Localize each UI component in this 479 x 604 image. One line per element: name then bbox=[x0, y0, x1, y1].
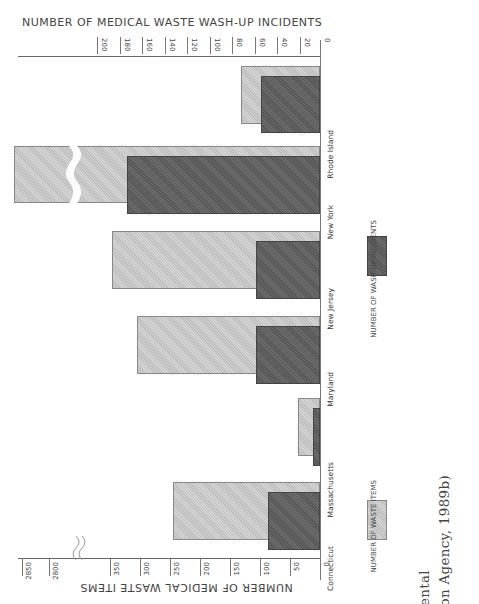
top-tick-label: 80 bbox=[235, 38, 243, 47]
top-tick bbox=[97, 37, 98, 54]
top-tick-label: 140 bbox=[168, 38, 176, 51]
axis-break-icon bbox=[70, 536, 88, 564]
bar-incidents-new-york bbox=[127, 156, 320, 214]
top-tick-label: 120 bbox=[190, 38, 198, 51]
top-tick-label: 0 bbox=[323, 38, 331, 42]
category-label: Rhode Island bbox=[326, 130, 335, 179]
top-tick bbox=[277, 37, 278, 54]
bar-incidents-new-jersey bbox=[256, 241, 320, 299]
bottom-tick bbox=[230, 558, 231, 576]
category-label: Connecticut bbox=[326, 546, 335, 591]
top-tick-label: 40 bbox=[280, 38, 288, 47]
bottom-tick-label: 350 bbox=[113, 562, 121, 575]
bottom-tick-label: 50 bbox=[293, 562, 301, 571]
bottom-axis-title: NUMBER OF MEDICAL WASTE ITEMS bbox=[80, 581, 293, 594]
top-tick-label: 160 bbox=[145, 38, 153, 51]
bottom-tick-label: 250 bbox=[173, 562, 181, 575]
bottom-tick-label: 2800 bbox=[52, 562, 60, 580]
bottom-tick bbox=[22, 558, 23, 576]
top-tick bbox=[142, 37, 143, 54]
axis-break-icon bbox=[60, 143, 84, 207]
top-tick-label: 60 bbox=[258, 38, 266, 47]
figure-caption-line2: Protection Agency, 1989b) bbox=[436, 475, 452, 604]
top-tick-label: 180 bbox=[123, 38, 131, 51]
top-tick bbox=[210, 37, 211, 54]
bar-incidents-massachusetts bbox=[313, 408, 320, 466]
bottom-tick bbox=[140, 558, 141, 576]
bar-incidents-connecticut bbox=[268, 492, 320, 550]
category-label: New Jersey bbox=[326, 288, 335, 330]
bottom-tick bbox=[260, 558, 261, 576]
bottom-tick-label: 150 bbox=[233, 562, 241, 575]
bottom-tick bbox=[110, 558, 111, 576]
top-tick bbox=[120, 37, 121, 54]
category-label: Massachusetts bbox=[326, 462, 335, 517]
bottom-tick bbox=[290, 558, 291, 576]
category-label: New York bbox=[326, 205, 335, 239]
category-label: Maryland bbox=[326, 372, 335, 407]
top-tick bbox=[187, 37, 188, 54]
bottom-tick-label: 0 bbox=[323, 562, 331, 566]
top-tick bbox=[232, 37, 233, 54]
figure-caption-line1: Figure 3-9 MEDICAL WASTE WASH-UPS BY STA… bbox=[416, 570, 432, 604]
bottom-tick bbox=[170, 558, 171, 576]
bar-incidents-maryland bbox=[256, 326, 320, 384]
top-tick-label: 200 bbox=[100, 38, 108, 51]
bottom-tick-label: 2850 bbox=[25, 562, 33, 580]
top-tick-label: 100 bbox=[213, 38, 221, 51]
bottom-tick bbox=[49, 558, 50, 576]
bottom-axis-line bbox=[18, 558, 320, 559]
top-tick bbox=[165, 37, 166, 54]
bar-incidents-rhode-island bbox=[261, 76, 320, 133]
bottom-tick-label: 300 bbox=[143, 562, 151, 575]
category-baseline bbox=[320, 40, 321, 580]
bottom-tick-label: 100 bbox=[263, 562, 271, 575]
top-axis-line bbox=[18, 56, 320, 57]
top-tick-label: 20 bbox=[303, 38, 311, 47]
legend-label-incidents: NUMBER OF WASH-UP INCIDENTS bbox=[370, 220, 378, 338]
bottom-tick-label: 200 bbox=[203, 562, 211, 575]
top-tick bbox=[255, 37, 256, 54]
bottom-tick bbox=[200, 558, 201, 576]
legend-label-waste-items: NUMBER OF WASTE ITEMS bbox=[370, 480, 378, 572]
top-axis-title: NUMBER OF MEDICAL WASTE WASH-UP INCIDENT… bbox=[22, 16, 322, 29]
top-tick bbox=[300, 37, 301, 54]
